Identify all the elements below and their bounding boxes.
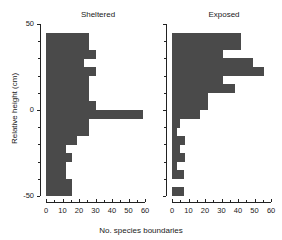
y-axis-tick: [164, 76, 166, 77]
x-axis-tick: [271, 199, 272, 202]
y-axis-tick: [164, 127, 166, 128]
bar: [172, 170, 184, 179]
y-axis-tick: [164, 144, 166, 145]
x-axis-tick: [189, 199, 190, 202]
x-axis-tick: [263, 200, 264, 202]
x-axis-tick-label: 60: [261, 206, 281, 215]
x-axis-tick: [197, 200, 198, 202]
y-axis-tick: [164, 93, 166, 94]
x-axis-tick: [205, 199, 206, 202]
x-axis-tick: [255, 199, 256, 202]
x-axis-tick: [230, 200, 231, 202]
y-axis-tick: [164, 41, 166, 42]
x-axis-tick: [180, 200, 181, 202]
x-axis-spine: [172, 202, 271, 203]
y-axis-tick: [164, 179, 166, 180]
y-axis-tick: [163, 24, 166, 25]
x-axis-tick: [172, 199, 173, 202]
figure-container: Relative height (cm) No. species boundar…: [0, 0, 282, 240]
x-axis-tick: [222, 199, 223, 202]
x-axis-tick: [246, 200, 247, 202]
x-axis-tick: [213, 200, 214, 202]
y-axis-tick: [163, 110, 166, 111]
y-axis-tick: [164, 58, 166, 59]
y-axis-spine: [166, 24, 167, 196]
bar: [172, 187, 184, 196]
x-axis-tick: [238, 199, 239, 202]
y-axis-tick: [164, 162, 166, 163]
panel-exposed: 0102030405060: [0, 0, 282, 240]
y-axis-tick: [163, 196, 166, 197]
